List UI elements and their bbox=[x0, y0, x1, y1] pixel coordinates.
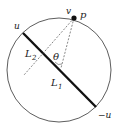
diagram-canvas: v p u −u L 2 L 1 θ bbox=[0, 0, 117, 134]
label-u: u bbox=[14, 21, 20, 31]
dashed-line-perpendicular bbox=[61, 18, 74, 68]
svg-text:1: 1 bbox=[58, 83, 62, 91]
label-neg-u: −u bbox=[98, 110, 112, 120]
label-l1: L 1 bbox=[50, 77, 62, 91]
theta-arc bbox=[55, 62, 62, 65]
label-p: p bbox=[80, 9, 87, 20]
label-theta: θ bbox=[53, 51, 59, 62]
label-l2: L 2 bbox=[24, 48, 37, 62]
svg-text:2: 2 bbox=[31, 54, 37, 62]
svg-text:L: L bbox=[50, 77, 58, 88]
point-p bbox=[71, 15, 76, 20]
svg-text:L: L bbox=[24, 48, 32, 59]
diameter-u bbox=[23, 33, 96, 107]
label-v: v bbox=[66, 6, 71, 16]
